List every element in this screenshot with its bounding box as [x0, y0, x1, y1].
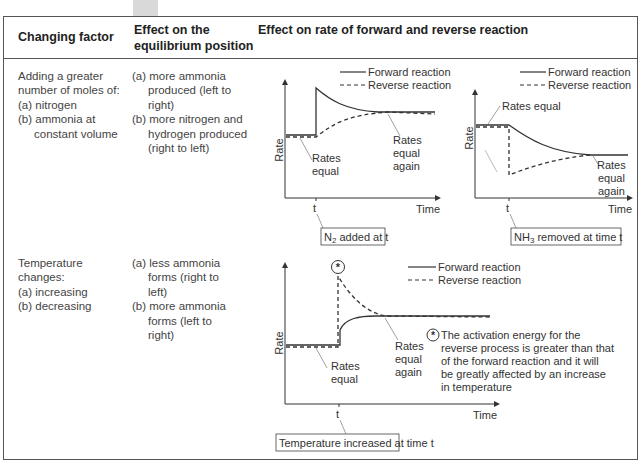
footnote-line2: reverse process is greater than that — [441, 342, 614, 354]
x-tick-label: t — [336, 408, 339, 420]
graphs-canvas: Forward reaction Reverse reaction Rate T… — [0, 0, 643, 468]
stray-mark — [485, 150, 497, 172]
graph-temperature-increased: Forward reaction Reverse reaction Rate T… — [273, 261, 614, 452]
note-rates-equal-1: Rates — [331, 360, 360, 372]
pointer-line — [300, 138, 312, 160]
y-axis-label: Rate — [273, 138, 285, 161]
pointer-line — [316, 348, 327, 368]
x-axis-label: Time — [473, 409, 497, 421]
legend-reverse-label: Reverse reaction — [368, 79, 451, 91]
note-again-2: equal — [598, 172, 625, 184]
note-again-2: equal — [395, 353, 422, 365]
note-rates-equal: Rates equal — [502, 100, 561, 112]
note-again-3: again — [393, 160, 420, 172]
star-glyph: * — [336, 261, 341, 273]
note-again-1: Rates — [597, 159, 626, 171]
graph-n2-added: Forward reaction Reverse reaction Rate T… — [273, 66, 451, 245]
caption-temperature-increased: Temperature increased at time t — [279, 437, 434, 449]
legend-forward-label: Forward reaction — [548, 66, 631, 78]
y-axis-label: Rate — [463, 126, 475, 149]
x-tick-label: t — [506, 202, 509, 214]
footnote-line3: of the forward reaction and it will — [441, 355, 599, 367]
legend-reverse-label: Reverse reaction — [438, 274, 521, 286]
x-tick-label: t — [313, 202, 316, 214]
pointer-line — [388, 114, 400, 136]
pointer-line — [340, 420, 346, 434]
note-again-3: again — [395, 366, 422, 378]
x-axis-label: Time — [608, 203, 632, 215]
note-rates-equal-2: equal — [312, 165, 339, 177]
y-axis-label: Rate — [273, 331, 285, 354]
footnote-line4: be greatly affected by an increase — [441, 368, 606, 380]
pointer-line — [317, 214, 323, 228]
note-rates-equal-2: equal — [331, 373, 358, 385]
note-rates-equal-1: Rates — [312, 152, 341, 164]
note-again-1: Rates — [395, 340, 424, 352]
legend-forward-label: Forward reaction — [438, 261, 521, 273]
note-again-2: equal — [393, 147, 420, 159]
footnote-line5: in temperature — [441, 381, 512, 393]
graph-nh3-removed: Forward reaction Reverse reaction Rate T… — [463, 66, 632, 245]
footnote-line1: The activation energy for the — [441, 329, 580, 341]
note-again-3: again — [598, 185, 625, 197]
pointer-line — [510, 214, 516, 228]
pointer-line — [385, 318, 398, 340]
forward-curve — [286, 88, 435, 135]
note-again-1: Rates — [393, 134, 422, 146]
forward-curve — [476, 125, 628, 155]
legend-forward-label: Forward reaction — [368, 66, 451, 78]
pointer-line — [488, 106, 500, 124]
legend-reverse-label: Reverse reaction — [548, 79, 631, 91]
x-axis-label: Time — [416, 203, 440, 215]
reverse-curve — [476, 127, 590, 175]
